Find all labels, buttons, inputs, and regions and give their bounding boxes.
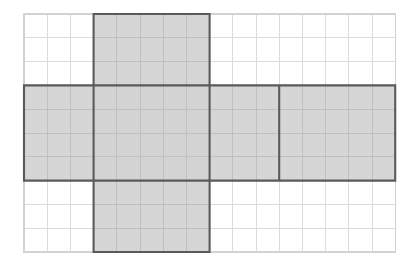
cube-net-figure (0, 0, 412, 266)
figure-canvas (0, 0, 412, 266)
